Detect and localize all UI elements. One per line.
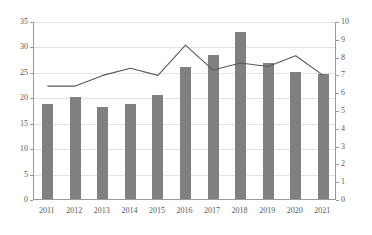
y-tickmark-right xyxy=(336,75,339,76)
y-tickmark-left xyxy=(30,149,33,150)
y-tick-right-1: 1 xyxy=(341,178,365,186)
y-tickmark-right xyxy=(336,129,339,130)
y-tick-right-0: 0 xyxy=(341,196,365,204)
y-tick-right-3: 3 xyxy=(341,143,365,151)
y-tick-right-6: 6 xyxy=(341,89,365,97)
line-path-svg xyxy=(34,22,337,200)
y-tickmark-left xyxy=(30,124,33,125)
chart-container: 05101520253035 012345678910 201120122013… xyxy=(0,0,372,235)
y-tickmark-right xyxy=(336,164,339,165)
y-tickmark-left xyxy=(30,175,33,176)
line-series xyxy=(34,22,335,199)
y-tickmark-left xyxy=(30,22,33,23)
y-tick-left-30: 30 xyxy=(4,43,28,51)
y-tickmark-right xyxy=(336,182,339,183)
x-tick-2021: 2021 xyxy=(305,207,339,215)
y-tickmark-right xyxy=(336,200,339,201)
y-tick-left-35: 35 xyxy=(4,18,28,26)
trend-line xyxy=(48,45,323,86)
y-tick-left-10: 10 xyxy=(4,145,28,153)
y-tickmark-right xyxy=(336,111,339,112)
y-tick-right-4: 4 xyxy=(341,125,365,133)
y-tick-right-8: 8 xyxy=(341,54,365,62)
y-tick-right-2: 2 xyxy=(341,160,365,168)
y-tickmark-right xyxy=(336,40,339,41)
plot-area xyxy=(33,22,336,200)
y-tickmark-right xyxy=(336,147,339,148)
y-tick-left-0: 0 xyxy=(4,196,28,204)
y-tick-left-5: 5 xyxy=(4,171,28,179)
y-tickmark-left xyxy=(30,98,33,99)
y-tick-left-25: 25 xyxy=(4,69,28,77)
y-tick-right-7: 7 xyxy=(341,71,365,79)
y-tick-right-10: 10 xyxy=(341,18,365,26)
y-tickmark-right xyxy=(336,22,339,23)
y-tickmark-right xyxy=(336,58,339,59)
y-tickmark-left xyxy=(30,47,33,48)
y-tick-left-15: 15 xyxy=(4,120,28,128)
y-tickmark-left xyxy=(30,73,33,74)
y-tickmark-right xyxy=(336,93,339,94)
y-tick-right-9: 9 xyxy=(341,36,365,44)
y-tick-left-20: 20 xyxy=(4,94,28,102)
y-tickmark-left xyxy=(30,200,33,201)
y-tick-right-5: 5 xyxy=(341,107,365,115)
